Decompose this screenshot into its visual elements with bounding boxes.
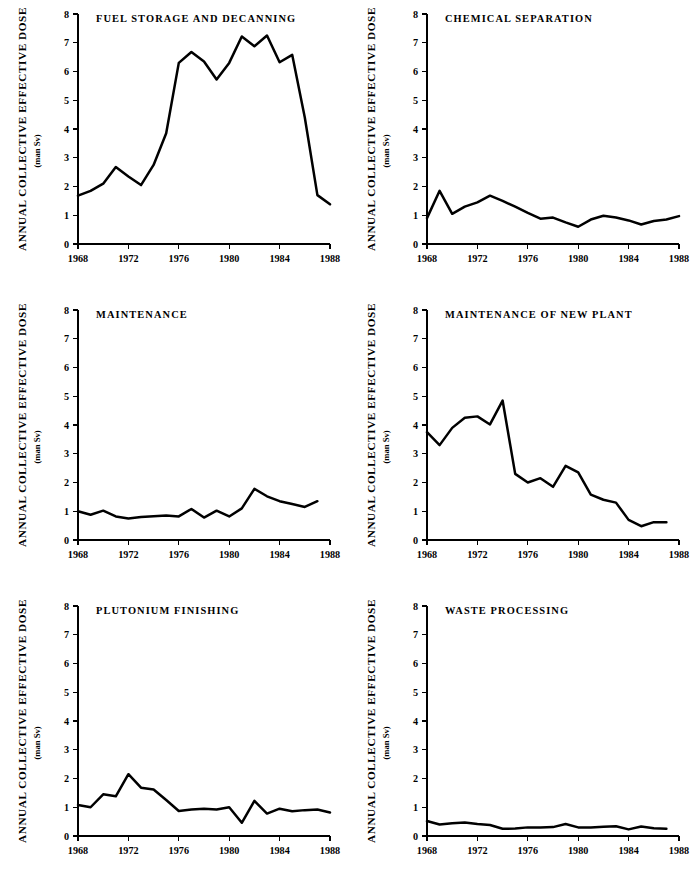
y-tick-label: 4 <box>413 420 418 431</box>
chart-canvas: ANNUAL COLLECTIVE EFFECTIVE DOSE(man Sv)… <box>349 296 697 592</box>
chart-panel: ANNUAL COLLECTIVE EFFECTIVE DOSE(man Sv)… <box>0 296 348 592</box>
y-tick-label: 3 <box>413 448 418 459</box>
x-tick-label: 1972 <box>118 845 138 856</box>
chart-title: PLUTONIUM FINISHING <box>96 605 239 616</box>
y-axis-label: ANNUAL COLLECTIVE EFFECTIVE DOSE <box>365 599 377 843</box>
y-axis-label: ANNUAL COLLECTIVE EFFECTIVE DOSE <box>16 7 28 251</box>
x-tick-label: 1980 <box>219 845 239 856</box>
y-tick-label: 0 <box>413 535 418 546</box>
x-tick-label: 1968 <box>68 549 88 560</box>
y-tick-label: 6 <box>413 66 418 77</box>
y-axis-label: ANNUAL COLLECTIVE EFFECTIVE DOSE <box>365 303 377 547</box>
y-tick-label: 6 <box>413 658 418 669</box>
y-tick-label: 5 <box>413 687 418 698</box>
data-series-line <box>427 401 666 527</box>
chart-canvas: ANNUAL COLLECTIVE EFFECTIVE DOSE(man Sv)… <box>349 0 697 296</box>
y-tick-label: 3 <box>413 744 418 755</box>
chart-canvas: ANNUAL COLLECTIVE EFFECTIVE DOSE(man Sv)… <box>0 296 348 592</box>
y-tick-label: 2 <box>64 477 69 488</box>
x-tick-label: 1980 <box>568 549 588 560</box>
y-tick-label: 3 <box>64 448 69 459</box>
y-tick-label: 3 <box>64 744 69 755</box>
chart-canvas: ANNUAL COLLECTIVE EFFECTIVE DOSE(man Sv)… <box>0 0 348 296</box>
y-tick-label: 1 <box>64 802 69 813</box>
x-tick-label: 1980 <box>219 549 239 560</box>
figure-root: ANNUAL COLLECTIVE EFFECTIVE DOSE(man Sv)… <box>0 0 697 889</box>
x-tick-label: 1984 <box>269 845 289 856</box>
y-axis-label: ANNUAL COLLECTIVE EFFECTIVE DOSE <box>16 303 28 547</box>
y-tick-label: 5 <box>64 391 69 402</box>
y-axis-units-label: (man Sv) <box>32 726 42 759</box>
y-tick-label: 4 <box>64 124 69 135</box>
x-tick-label: 1972 <box>118 253 138 264</box>
x-tick-label: 1968 <box>68 845 88 856</box>
y-tick-label: 3 <box>64 152 69 163</box>
y-axis-label: ANNUAL COLLECTIVE EFFECTIVE DOSE <box>365 7 377 251</box>
y-tick-label: 7 <box>64 333 69 344</box>
y-tick-label: 6 <box>64 66 69 77</box>
x-tick-label: 1988 <box>669 845 689 856</box>
data-series-line <box>427 821 666 829</box>
y-tick-label: 6 <box>64 658 69 669</box>
chart-canvas: ANNUAL COLLECTIVE EFFECTIVE DOSE(man Sv)… <box>0 592 348 888</box>
x-tick-label: 1972 <box>467 845 487 856</box>
y-tick-label: 8 <box>413 9 418 20</box>
y-tick-label: 7 <box>413 37 418 48</box>
y-tick-label: 8 <box>413 601 418 612</box>
y-tick-label: 7 <box>413 629 418 640</box>
x-tick-label: 1988 <box>669 253 689 264</box>
y-axis-units-label: (man Sv) <box>381 430 391 463</box>
x-tick-label: 1968 <box>417 845 437 856</box>
y-axis-units-label: (man Sv) <box>32 134 42 167</box>
y-tick-label: 4 <box>413 124 418 135</box>
y-tick-label: 2 <box>413 773 418 784</box>
y-tick-label: 0 <box>64 535 69 546</box>
y-tick-label: 1 <box>413 210 418 221</box>
chart-panel: ANNUAL COLLECTIVE EFFECTIVE DOSE(man Sv)… <box>349 296 697 592</box>
chart-panel: ANNUAL COLLECTIVE EFFECTIVE DOSE(man Sv)… <box>0 592 348 888</box>
y-tick-label: 5 <box>64 687 69 698</box>
data-series-line <box>78 774 330 823</box>
y-axis-units-label: (man Sv) <box>32 430 42 463</box>
y-tick-label: 2 <box>64 773 69 784</box>
y-tick-label: 1 <box>64 210 69 221</box>
y-tick-label: 4 <box>64 420 69 431</box>
y-tick-label: 8 <box>64 305 69 316</box>
chart-title: MAINTENANCE <box>96 309 188 320</box>
y-tick-label: 1 <box>413 506 418 517</box>
chart-panel: ANNUAL COLLECTIVE EFFECTIVE DOSE(man Sv)… <box>349 592 697 888</box>
data-series-line <box>78 489 317 519</box>
y-tick-label: 7 <box>64 629 69 640</box>
chart-canvas: ANNUAL COLLECTIVE EFFECTIVE DOSE(man Sv)… <box>349 592 697 888</box>
x-tick-label: 1972 <box>467 549 487 560</box>
x-tick-label: 1972 <box>118 549 138 560</box>
y-tick-label: 8 <box>64 9 69 20</box>
y-tick-label: 2 <box>413 477 418 488</box>
y-tick-label: 6 <box>64 362 69 373</box>
x-tick-label: 1968 <box>417 549 437 560</box>
x-tick-label: 1984 <box>269 253 289 264</box>
x-tick-label: 1976 <box>169 549 189 560</box>
chart-panel: ANNUAL COLLECTIVE EFFECTIVE DOSE(man Sv)… <box>0 0 348 296</box>
x-tick-label: 1976 <box>169 845 189 856</box>
y-tick-label: 4 <box>64 716 69 727</box>
x-tick-label: 1984 <box>269 549 289 560</box>
y-tick-label: 5 <box>413 391 418 402</box>
x-tick-label: 1988 <box>320 549 340 560</box>
y-tick-label: 2 <box>64 181 69 192</box>
chart-title: MAINTENANCE OF NEW PLANT <box>445 309 633 320</box>
x-tick-label: 1988 <box>320 253 340 264</box>
y-tick-label: 4 <box>413 716 418 727</box>
x-tick-label: 1984 <box>618 253 638 264</box>
y-tick-label: 0 <box>64 831 69 842</box>
y-axis-units-label: (man Sv) <box>381 134 391 167</box>
y-tick-label: 0 <box>64 239 69 250</box>
x-tick-label: 1976 <box>518 253 538 264</box>
data-series-line <box>427 191 679 227</box>
x-tick-label: 1968 <box>417 253 437 264</box>
chart-title: FUEL STORAGE AND DECANNING <box>96 13 296 24</box>
y-tick-label: 6 <box>413 362 418 373</box>
y-tick-label: 0 <box>413 239 418 250</box>
data-series-line <box>78 36 330 205</box>
y-tick-label: 5 <box>413 95 418 106</box>
